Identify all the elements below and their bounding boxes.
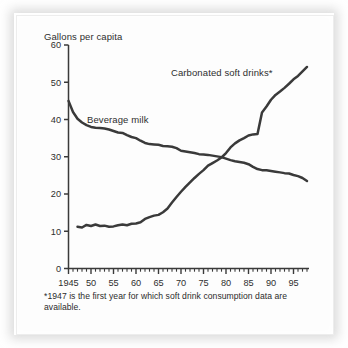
chart-figure: 0102030405060 194550556065707580859095 G… — [0, 0, 348, 348]
svg-text:85: 85 — [243, 278, 253, 288]
svg-text:40: 40 — [51, 115, 61, 125]
chart-footnote: *1947 is the first year for which soft d… — [44, 291, 312, 314]
svg-text:65: 65 — [153, 278, 163, 288]
svg-text:55: 55 — [108, 278, 118, 288]
series-label-soft-drinks: Carbonated soft drinks* — [171, 67, 273, 78]
y-axis-title: Gallons per capita — [44, 31, 122, 42]
svg-text:1945: 1945 — [58, 278, 78, 288]
axes-group — [69, 45, 310, 269]
svg-text:30: 30 — [51, 152, 61, 162]
svg-text:10: 10 — [51, 227, 61, 237]
svg-text:50: 50 — [86, 278, 96, 288]
series-label-beverage-milk: Beverage milk — [87, 114, 149, 125]
svg-text:80: 80 — [221, 278, 231, 288]
y-axis-tick-labels: 0102030405060 — [51, 40, 61, 273]
svg-text:60: 60 — [131, 278, 141, 288]
svg-text:50: 50 — [51, 78, 61, 88]
svg-text:0: 0 — [56, 264, 61, 274]
data-series-group — [69, 67, 308, 228]
svg-text:70: 70 — [176, 278, 186, 288]
svg-text:90: 90 — [266, 278, 276, 288]
svg-text:75: 75 — [198, 278, 208, 288]
x-axis-tick-labels: 194550556065707580859095 — [58, 278, 298, 288]
x-minor-ticks — [69, 269, 308, 275]
svg-text:95: 95 — [288, 278, 298, 288]
svg-text:20: 20 — [51, 189, 61, 199]
